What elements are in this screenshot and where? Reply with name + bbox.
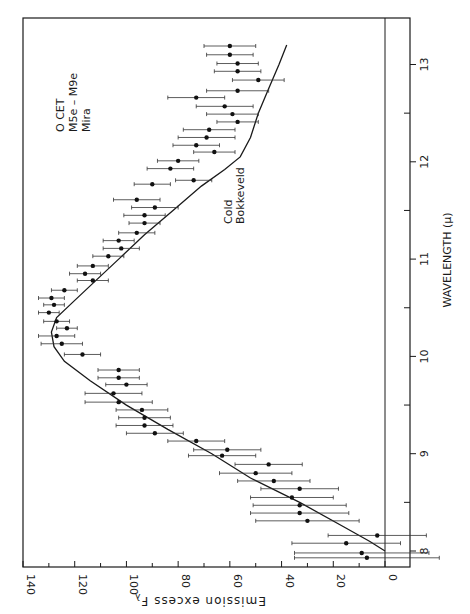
point-marker (207, 127, 211, 131)
emission-excess-chart: 0204060801001201408910111213 O CET M5e –… (0, 0, 470, 614)
point-marker (194, 439, 198, 443)
point-marker (124, 382, 128, 386)
data-point (256, 519, 359, 523)
point-marker (235, 69, 239, 73)
y-tick-label: 100 (127, 574, 140, 595)
y-tick-label-text: 20 (334, 574, 347, 588)
y-tick-label: 20 (334, 574, 347, 588)
point-marker (116, 376, 120, 380)
x-tick-label: 11 (418, 252, 431, 266)
point-marker (235, 120, 239, 124)
data-point (64, 352, 100, 356)
star-annotation: O CET M5e – M9e Mira (54, 73, 93, 132)
data-point (77, 264, 108, 268)
point-marker (153, 205, 157, 209)
point-marker (297, 511, 301, 515)
data-point (116, 408, 168, 412)
data-point (168, 95, 225, 99)
data-point (194, 150, 235, 154)
point-marker (305, 519, 309, 523)
data-point (207, 112, 259, 116)
point-marker (111, 391, 115, 395)
point-marker (168, 166, 172, 170)
x-tick-label-text: 13 (418, 58, 431, 72)
data-point (126, 431, 183, 435)
model-annotation: Cold Bokkeveld (222, 167, 247, 224)
point-marker (254, 471, 258, 475)
point-marker (140, 408, 144, 412)
data-point (157, 159, 198, 163)
data-point (173, 143, 220, 147)
point-marker (153, 431, 157, 435)
data-point (134, 182, 170, 186)
data-point (85, 391, 142, 395)
y-tick-label: 120 (76, 574, 89, 595)
x-tick-label-text: 10 (418, 349, 431, 363)
point-marker (266, 462, 270, 466)
point-marker (375, 533, 379, 537)
data-point (214, 69, 261, 73)
data-point (295, 556, 440, 560)
data-point (114, 198, 161, 202)
point-marker (365, 556, 369, 560)
data-point (132, 205, 179, 209)
data-point (183, 127, 235, 131)
data-point (235, 462, 302, 466)
point-marker (235, 61, 239, 65)
data-point (261, 487, 339, 491)
star-class-label: Mira (80, 108, 93, 132)
point-marker (235, 89, 239, 93)
point-marker (256, 78, 260, 82)
data-point (204, 44, 256, 48)
data-point (196, 104, 253, 108)
data-point (194, 448, 261, 452)
y-tick-label-text: 120 (76, 574, 89, 595)
plot-frame (23, 18, 410, 567)
point-marker (204, 135, 208, 139)
y-tick-label: 0 (386, 574, 399, 581)
point-marker (150, 182, 154, 186)
model-curve-line (51, 45, 385, 551)
point-marker (176, 159, 180, 163)
point-marker (91, 278, 95, 282)
point-marker (54, 334, 58, 338)
y-axis-title-text: Emission excess Fλ (134, 592, 266, 608)
x-tick-label: 9 (418, 450, 431, 457)
x-tick-label-text: 12 (418, 155, 431, 169)
tick-labels: 0204060801001201408910111213 (24, 58, 431, 596)
y-tick-label: 80 (179, 574, 192, 588)
point-marker (116, 400, 120, 404)
data-point (77, 278, 108, 282)
data-point (93, 254, 124, 258)
data-point (70, 271, 101, 275)
data-points-o-cet (39, 44, 440, 560)
data-point (51, 288, 77, 292)
data-point (44, 319, 70, 323)
data-point (178, 135, 235, 139)
model-curve-cold-bokkeveld (51, 45, 385, 551)
point-marker (54, 319, 58, 323)
x-tick-label: 10 (418, 349, 431, 363)
star-type-label: M5e – M9e (67, 73, 80, 132)
data-point (57, 326, 78, 330)
data-point (188, 453, 255, 457)
data-point (232, 78, 284, 82)
point-marker (297, 487, 301, 491)
point-marker (194, 143, 198, 147)
x-axis-title: WAVELENGTH (μ) (441, 212, 454, 307)
point-marker (142, 221, 146, 225)
point-marker (47, 310, 51, 314)
data-point (41, 342, 82, 346)
point-marker (222, 104, 226, 108)
point-marker (52, 303, 56, 307)
y-tick-label-text: 40 (283, 574, 296, 588)
point-marker (142, 213, 146, 217)
data-point (124, 213, 165, 217)
point-marker (80, 352, 84, 356)
point-marker (297, 503, 301, 507)
point-marker (220, 453, 224, 457)
data-point (119, 415, 171, 419)
point-marker (83, 271, 87, 275)
point-marker (135, 231, 139, 235)
data-point (253, 503, 346, 507)
